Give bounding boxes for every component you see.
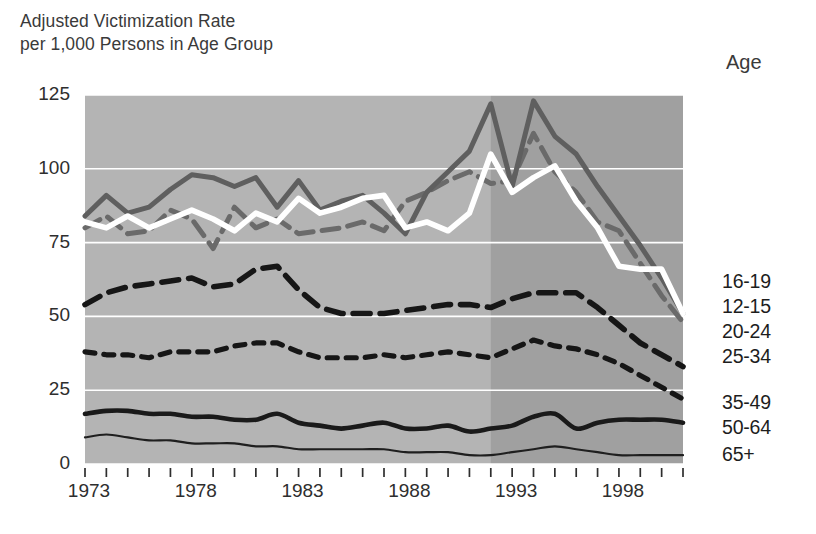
plot-area (0, 0, 816, 534)
x-tick-label: 1973 (44, 480, 134, 502)
y-tick-label: 0 (8, 452, 70, 474)
y-tick-label: 25 (8, 378, 70, 400)
chart-figure: Adjusted Victimization Rate per 1,000 Pe… (0, 0, 816, 534)
y-tick-label: 75 (8, 231, 70, 253)
legend-entry-25-34: 25-34 (722, 345, 771, 368)
legend-entry-35-49: 35-49 (722, 391, 771, 414)
x-tick-label: 1988 (364, 480, 454, 502)
x-tick-label: 1983 (258, 480, 348, 502)
x-tick-label: 1998 (578, 480, 668, 502)
legend-entry-65+: 65+ (722, 443, 754, 466)
legend-entry-16-19: 16-19 (722, 270, 771, 293)
legend-entry-50-64: 50-64 (722, 416, 771, 439)
x-tick-label: 1993 (471, 480, 561, 502)
y-tick-label: 125 (8, 83, 70, 105)
legend-entry-12-15: 12-15 (722, 295, 771, 318)
x-tick-label: 1978 (151, 480, 241, 502)
y-tick-label: 50 (8, 304, 70, 326)
y-tick-label: 100 (8, 157, 70, 179)
legend-entry-20-24: 20-24 (722, 320, 771, 343)
